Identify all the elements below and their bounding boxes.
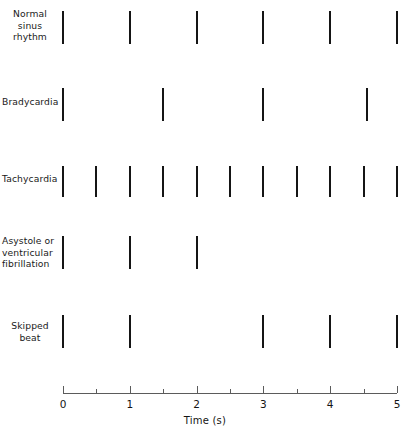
- axis-tick-major: [330, 386, 331, 393]
- axis-tick-label: 4: [320, 398, 340, 410]
- beat-marker: [329, 11, 331, 44]
- axis-tick-minor: [96, 389, 97, 393]
- axis-tick-major: [63, 386, 64, 393]
- beat-marker: [196, 236, 198, 269]
- axis-tick-label: 5: [387, 398, 407, 410]
- beat-trace-skipped-beat: [0, 0, 410, 1]
- rhythm-label-normal-sinus-rhythm: Normal sinus rhythm: [2, 8, 58, 43]
- axis-tick-minor: [230, 389, 231, 393]
- beat-marker: [129, 236, 131, 269]
- beat-marker: [262, 11, 264, 44]
- axis-tick-label: 2: [187, 398, 207, 410]
- beat-marker: [229, 166, 231, 197]
- beat-marker: [62, 11, 64, 44]
- rhythm-label-asystole-or-ventricular-fibrillation: Asystole or ventricular fibrillation: [2, 235, 58, 270]
- beat-marker: [329, 315, 331, 348]
- axis-tick-label: 1: [120, 398, 140, 410]
- beat-marker: [196, 11, 198, 44]
- axis-tick-label: 3: [253, 398, 273, 410]
- beat-marker: [262, 315, 264, 348]
- beat-marker: [129, 315, 131, 348]
- axis-tick-minor: [163, 389, 164, 393]
- rhythm-label-tachycardia: Tachycardia: [2, 173, 58, 185]
- axis-tick-minor: [364, 389, 365, 393]
- beat-marker: [396, 315, 398, 348]
- beat-marker: [329, 166, 331, 197]
- axis-title: Time (s): [0, 415, 410, 426]
- beat-marker: [396, 166, 398, 197]
- axis-tick-major: [263, 386, 264, 393]
- axis-line: [63, 393, 397, 394]
- rhythm-label-skipped-beat: Skipped beat: [2, 320, 58, 343]
- beat-marker: [129, 11, 131, 44]
- rhythm-label-bradycardia: Bradycardia: [2, 96, 58, 108]
- axis-tick-minor: [297, 389, 298, 393]
- axis-tick-major: [397, 386, 398, 393]
- beat-marker: [162, 166, 164, 197]
- beat-marker: [396, 11, 398, 44]
- beat-marker: [262, 88, 264, 121]
- beat-marker: [129, 166, 131, 197]
- beat-marker: [363, 166, 365, 197]
- beat-marker: [62, 166, 64, 197]
- beat-marker: [62, 88, 64, 121]
- axis-tick-label: 0: [53, 398, 73, 410]
- beat-marker: [262, 166, 264, 197]
- rhythm-row-skipped-beat: Skipped beat: [0, 0, 410, 1]
- beat-marker: [196, 166, 198, 197]
- beat-marker: [62, 315, 64, 348]
- axis-tick-major: [130, 386, 131, 393]
- beat-marker: [366, 88, 368, 121]
- ecg-rhythm-figure: Normal sinus rhythmBradycardiaTachycardi…: [0, 0, 410, 434]
- beat-marker: [62, 236, 64, 269]
- beat-marker: [162, 88, 164, 121]
- axis-tick-major: [197, 386, 198, 393]
- beat-marker: [95, 166, 97, 197]
- beat-marker: [296, 166, 298, 197]
